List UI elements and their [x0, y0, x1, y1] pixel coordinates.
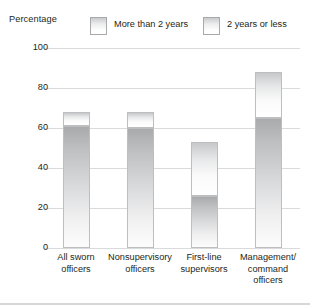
y-tick-label-60: 60 — [2, 122, 48, 132]
y-axis-title: Percentage — [9, 14, 57, 24]
legend-swatch-2-years-or-less — [203, 17, 220, 35]
bar-segment-2-years-or-less — [63, 126, 90, 248]
bar-segment-2-years-or-less — [191, 196, 218, 248]
bar-segment-more-than-2-years — [255, 72, 282, 118]
y-tick-label-100: 100 — [2, 42, 48, 52]
legend-swatch-more-than-2-years — [90, 17, 107, 35]
legend-label-2-years-or-less: 2 years or less — [227, 19, 287, 29]
y-tick-label-80: 80 — [2, 82, 48, 92]
x-axis-label-1: All swornofficers — [41, 252, 111, 275]
bar-segment-more-than-2-years — [191, 142, 218, 196]
bar-segment-more-than-2-years — [127, 112, 154, 128]
x-axis-labels: All swornofficersNonsupervisoryofficersF… — [44, 252, 300, 298]
x-axis-label-4: Management/commandofficers — [233, 252, 303, 287]
x-axis-label-2: Nonsupervisoryofficers — [105, 252, 175, 275]
y-tick-label-20: 20 — [2, 202, 48, 212]
bar-segment-2-years-or-less — [127, 128, 154, 248]
legend-label-more-than-2-years: More than 2 years — [114, 19, 188, 29]
bar-2 — [127, 112, 154, 248]
bar-4 — [255, 72, 282, 248]
y-tick-label-0: 0 — [2, 242, 48, 252]
plot-area: 020406080100 — [44, 48, 300, 248]
bottom-rule — [0, 303, 310, 305]
bar-segment-2-years-or-less — [255, 118, 282, 248]
bar-1 — [63, 112, 90, 248]
y-tick-label-40: 40 — [2, 162, 48, 172]
bar-chart: Percentage More than 2 years 2 years or … — [0, 0, 310, 307]
x-axis-label-3: First-linesupervisors — [169, 252, 239, 275]
bar-3 — [191, 142, 218, 248]
gridline-100 — [44, 48, 300, 49]
bar-segment-more-than-2-years — [63, 112, 90, 126]
gridline-0 — [44, 248, 300, 249]
